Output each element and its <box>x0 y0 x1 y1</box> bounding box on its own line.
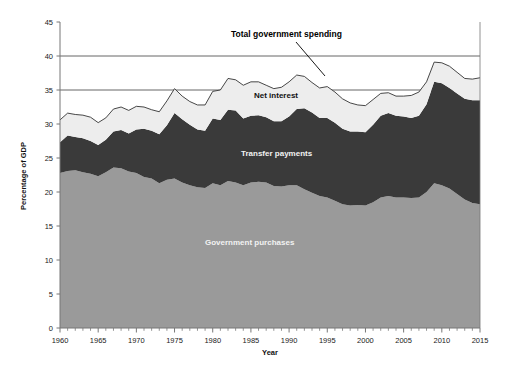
y-tick-label-5: 5 <box>49 290 53 299</box>
x-tick-label-2000: 2000 <box>357 336 374 345</box>
x-tick-label-1980: 1980 <box>204 336 221 345</box>
x-tick-label-2010: 2010 <box>433 336 450 345</box>
y-tick-label-30: 30 <box>45 120 53 129</box>
x-tick-label-1985: 1985 <box>243 336 260 345</box>
annotation-government-purchases: Government purchases <box>205 238 295 247</box>
x-tick-label-1995: 1995 <box>319 336 336 345</box>
x-tick-label-2005: 2005 <box>395 336 412 345</box>
annotation-transfer-payments: Transfer payments <box>241 149 313 158</box>
annotation-total-government-spending: Total government spending <box>231 29 342 39</box>
y-tick-label-10: 10 <box>45 256 53 265</box>
y-axis-title: Percentage of GDP <box>19 142 28 210</box>
y-axis-ticks <box>57 22 61 328</box>
y-tick-label-40: 40 <box>45 52 53 61</box>
chart-container: 051015202530354045 196019651970197519801… <box>0 0 524 372</box>
y-tick-label-20: 20 <box>45 188 53 197</box>
x-tick-label-2015: 2015 <box>472 336 489 345</box>
y-tick-label-45: 45 <box>45 18 53 27</box>
x-tick-label-1975: 1975 <box>166 336 183 345</box>
x-axis-title: Year <box>262 348 278 357</box>
y-tick-label-0: 0 <box>49 324 53 333</box>
stacked-area-chart: 051015202530354045 196019651970197519801… <box>0 0 524 372</box>
y-tick-label-15: 15 <box>45 222 53 231</box>
y-tick-label-35: 35 <box>45 86 53 95</box>
annotation-net-interest: Net interest <box>254 91 298 100</box>
y-tick-label-25: 25 <box>45 154 53 163</box>
x-tick-label-1990: 1990 <box>281 336 298 345</box>
y-axis-tick-labels: 051015202530354045 <box>45 18 53 333</box>
x-tick-label-1970: 1970 <box>128 336 145 345</box>
x-tick-label-1965: 1965 <box>90 336 107 345</box>
x-axis-ticks <box>60 328 480 333</box>
x-axis-tick-labels: 1960196519701975198019851990199520002005… <box>52 336 489 345</box>
x-tick-label-1960: 1960 <box>52 336 69 345</box>
